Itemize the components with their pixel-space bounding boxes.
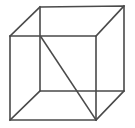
wireframe-cube-drawing bbox=[0, 0, 135, 128]
figure-canvas bbox=[0, 0, 135, 128]
figure-background bbox=[0, 0, 135, 128]
